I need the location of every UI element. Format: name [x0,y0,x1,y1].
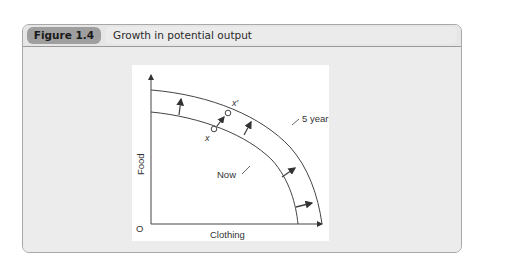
future-leader [292,119,299,125]
point-x-prime-label: x′ [231,98,239,108]
figure-number-badge: Figure 1.4 [27,27,101,44]
shift-arrow-icon [282,168,295,177]
future-curve [151,90,322,224]
shift-arrow-icon [244,122,251,135]
figure-title: Growth in potential output [113,27,252,44]
figure-header: Figure 1.4 Growth in potential output [23,25,461,47]
ppf-diagram: x x′ Now 5 years' time Food Clothing O [132,65,329,241]
now-curve [151,112,298,224]
point-x-label: x [204,133,210,143]
figure-body: x x′ Now 5 years' time Food Clothing O [23,47,461,252]
shift-arrow-icon [179,99,181,115]
shift-arrow-icon [296,203,312,207]
x-axis-label: Clothing [210,229,245,240]
point-x-prime [225,110,231,116]
movement-arrow-icon [217,117,224,126]
plot-area: x x′ Now 5 years' time Food Clothing O [132,65,329,241]
origin-label: O [136,223,143,234]
now-label: Now [217,169,236,180]
y-axis-label: Food [135,153,146,175]
point-x [211,126,217,132]
now-leader [242,166,250,174]
future-label: 5 years' time [302,113,329,124]
figure-card: Figure 1.4 Growth in potential output [22,24,462,253]
